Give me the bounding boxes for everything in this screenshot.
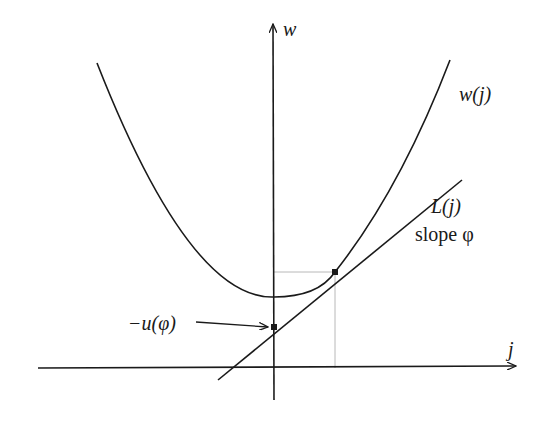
curve-w-label: w(j): [459, 83, 492, 106]
slope-label: slope φ: [415, 223, 474, 246]
intercept-pointer-arrow: [196, 322, 268, 327]
diagram-canvas: w j w(j) L(j) slope φ −u(φ): [0, 0, 538, 424]
intercept-point-marker: [271, 324, 277, 330]
j-axis: [38, 366, 516, 368]
w-axis: [273, 24, 274, 400]
tangent-label: L(j): [430, 195, 461, 218]
tangent-line-L: [218, 180, 462, 380]
intercept-label: −u(φ): [128, 312, 176, 335]
j-axis-label: j: [505, 338, 514, 361]
tangent-point-marker: [332, 269, 338, 275]
w-axis-label: w: [283, 18, 297, 40]
